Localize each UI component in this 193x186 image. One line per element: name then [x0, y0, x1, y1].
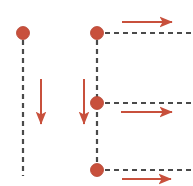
node-right-bottom: [91, 164, 104, 177]
arrow-layer: [41, 22, 172, 179]
node-right-top: [91, 27, 104, 40]
node-left-top: [17, 27, 30, 40]
diagram-svg: [0, 0, 193, 186]
node-layer: [17, 27, 104, 177]
node-right-middle: [91, 97, 104, 110]
dashed-line-layer: [23, 33, 192, 176]
diagram-canvas: [0, 0, 193, 186]
